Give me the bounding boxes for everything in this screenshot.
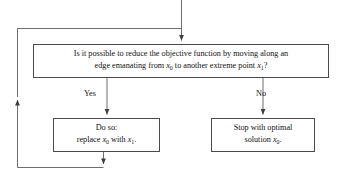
action-line-1: Do so: (96, 122, 118, 134)
action-text-b: with (109, 135, 128, 144)
terminal-line-1: Stop with optimal (234, 122, 293, 134)
terminal-node: Stop with optimal solution x0. (211, 118, 315, 152)
question-line-1: Is it possible to reduce the objective f… (74, 48, 288, 60)
action-node: Do so: replace x0 with x1. (53, 118, 160, 152)
flowchart-diagram: Is it possible to reduce the objective f… (0, 0, 342, 182)
no-branch-label: No (256, 89, 266, 98)
question-text-c: ? (264, 61, 268, 70)
terminal-text-a: solution (244, 135, 272, 144)
question-text-b: to another extreme point (173, 61, 257, 70)
question-node: Is it possible to reduce the objective f… (33, 44, 329, 78)
action-line-2: replace x0 with x1. (77, 134, 137, 148)
action-text-c: . (134, 135, 136, 144)
connector-lines (0, 0, 342, 182)
question-line-2: edge emanating from x0 to another extrem… (95, 60, 268, 74)
terminal-line-2: solution x0. (244, 134, 281, 148)
terminal-text-b: . (279, 135, 281, 144)
question-text-a: edge emanating from (95, 61, 167, 70)
action-text-a: replace (77, 135, 103, 144)
yes-branch-label: Yes (84, 89, 96, 98)
